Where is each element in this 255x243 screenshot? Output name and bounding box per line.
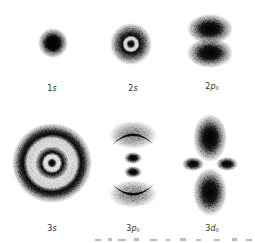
label-2p0: 2p0 [205,82,218,91]
orbital-3p0 [109,121,157,208]
orbital-3d0 [182,114,238,216]
label-1s: 1s [47,84,56,93]
orbital-1s [38,28,68,58]
label-3d0: 3d0 [205,224,218,233]
orbital-2p0 [187,14,233,68]
cropped-caption-fragment [0,236,255,243]
label-2s: 2s [128,84,137,93]
orbital-3s [12,123,92,203]
orbital-density-figure [0,0,255,243]
label-3p0: 3p0 [126,224,139,233]
orbital-2s [110,23,152,65]
label-3s: 3s [47,224,56,233]
